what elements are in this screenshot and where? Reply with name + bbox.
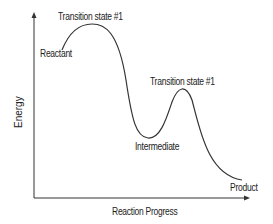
- label-reactant: Reactant: [40, 48, 72, 59]
- label-transition-state-1: Transition state #1: [58, 11, 123, 22]
- energy-curve: [62, 24, 242, 180]
- y-axis-arrow-icon: [32, 12, 37, 18]
- x-axis-label: Reaction Progress: [112, 206, 178, 217]
- x-axis-arrow-icon: [244, 196, 250, 201]
- y-axis-label: Energy: [13, 96, 24, 128]
- label-product: Product: [230, 182, 258, 193]
- label-transition-state-2: Transition state #1: [150, 76, 215, 87]
- label-intermediate: Intermediate: [135, 141, 179, 152]
